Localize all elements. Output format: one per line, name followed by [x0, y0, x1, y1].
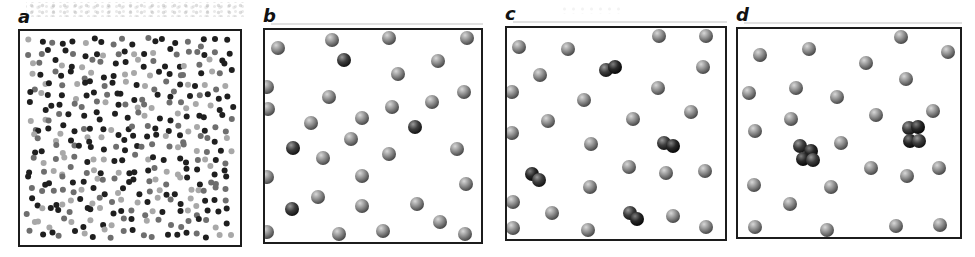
particle-dot — [202, 157, 208, 163]
sphere — [834, 136, 848, 150]
particle-dot — [217, 232, 223, 238]
particle-dot — [172, 40, 178, 46]
particle-dot — [53, 57, 59, 63]
panel-d: d — [736, 27, 962, 239]
particle-dot — [153, 177, 159, 183]
sphere — [425, 95, 439, 109]
sphere — [376, 224, 390, 238]
particle-dot — [27, 89, 33, 95]
sphere — [410, 197, 424, 211]
sphere — [344, 132, 358, 146]
sphere — [541, 114, 555, 128]
particle-dot — [223, 186, 229, 192]
particle-dot — [135, 105, 141, 111]
sphere — [698, 164, 712, 178]
particle-dot — [97, 117, 103, 123]
particle-dot — [74, 81, 80, 87]
particle-dot — [177, 156, 183, 162]
sphere — [699, 29, 713, 43]
particle-dot — [141, 102, 147, 108]
particle-dot — [157, 115, 163, 121]
particle-dot — [119, 157, 125, 163]
particle-dot — [146, 178, 152, 184]
particle-dot — [223, 197, 229, 203]
particle-dot — [221, 60, 227, 66]
particle-dot — [59, 201, 65, 207]
particle-dot — [48, 205, 54, 211]
particle-dot — [159, 36, 165, 42]
dark-sphere — [666, 139, 680, 153]
particle-dot — [40, 231, 46, 237]
particle-dot — [32, 150, 38, 156]
sphere — [941, 45, 955, 59]
particle-dot — [68, 68, 74, 74]
figure: a b c d — [0, 0, 975, 257]
particle-dot — [30, 60, 36, 66]
particle-dot — [46, 80, 52, 86]
particle-dot — [130, 227, 136, 233]
sphere — [652, 29, 666, 43]
particle-dot — [185, 208, 191, 214]
particle-dot — [131, 97, 137, 103]
particle-dot — [149, 234, 155, 240]
particle-dot — [28, 118, 34, 124]
particle-dot — [215, 208, 221, 214]
particle-dot — [139, 144, 145, 150]
particle-dot — [116, 102, 122, 108]
particle-dot — [72, 101, 78, 107]
particle-dot — [81, 179, 87, 185]
particle-dot — [177, 174, 183, 180]
particle-dot — [91, 185, 97, 191]
particle-dot — [94, 99, 100, 105]
particle-dot — [100, 53, 106, 59]
particle-dot — [165, 232, 171, 238]
particle-dot — [99, 134, 105, 140]
particle-dot — [87, 217, 93, 223]
particle-dot — [101, 157, 107, 163]
particle-dot — [192, 83, 198, 89]
particle-dot — [135, 200, 141, 206]
particle-dot — [196, 62, 202, 68]
particle-dot — [113, 61, 119, 67]
sphere — [926, 104, 940, 118]
particle-dot — [186, 49, 192, 55]
sphere — [431, 54, 445, 68]
sphere — [355, 169, 369, 183]
particle-dot — [88, 144, 94, 150]
particle-dot — [46, 224, 52, 230]
particle-dot — [167, 100, 173, 106]
particle-dot — [61, 155, 67, 161]
particle-dot — [144, 133, 150, 139]
particle-dot — [198, 133, 204, 139]
particle-dot — [150, 154, 156, 160]
particle-dot — [183, 105, 189, 111]
particle-dot — [212, 197, 218, 203]
particle-dot — [57, 131, 63, 137]
sphere — [265, 102, 275, 116]
panel-b-box — [263, 28, 483, 244]
particle-dot — [155, 195, 161, 201]
particle-dot — [142, 113, 148, 119]
sphere — [784, 112, 798, 126]
particle-dot — [68, 198, 74, 204]
particle-dot — [174, 51, 180, 57]
particle-dot — [213, 225, 219, 231]
panel-a: a — [18, 29, 242, 247]
particle-dot — [202, 82, 208, 88]
particle-dot — [29, 185, 35, 191]
particle-dot — [222, 83, 228, 89]
particle-dot — [194, 148, 200, 154]
particle-dot — [212, 171, 218, 177]
sphere — [859, 56, 873, 70]
particle-dot — [153, 132, 159, 138]
particle-dot — [145, 123, 151, 129]
particle-dot — [72, 228, 78, 234]
particle-dot — [150, 50, 156, 56]
particle-dot — [41, 169, 47, 175]
particle-dot — [135, 57, 141, 63]
particle-dot — [82, 231, 88, 237]
particle-dot — [79, 104, 85, 110]
sphere — [507, 195, 520, 209]
particle-dot — [97, 195, 103, 201]
particle-dot — [87, 78, 93, 84]
